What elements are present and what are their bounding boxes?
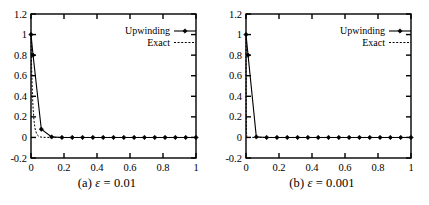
plot-area-b: -0.200.20.40.60.811.200.20.40.60.81Upwin…: [215, 0, 429, 205]
x-tick-label: 0.6: [338, 162, 351, 173]
y-tick-label: 0.6: [229, 70, 242, 81]
x-tick-label: 0.2: [272, 162, 285, 173]
x-tick-label: 0.8: [156, 162, 169, 173]
series-line-upwinding: [31, 35, 196, 138]
panel-b-caption-prefix: (b): [289, 176, 304, 190]
x-tick-label: 0.2: [57, 162, 70, 173]
y-tick-label: 1: [237, 29, 242, 40]
chart-panel-a: -0.200.20.40.60.811.200.20.40.60.81Upwin…: [0, 0, 214, 205]
y-tick-label: 1: [22, 29, 27, 40]
legend-label-upwinding: Upwinding: [340, 25, 385, 36]
y-tick-label: 0: [237, 132, 242, 143]
legend-sample-marker: [398, 29, 402, 33]
legend-sample-marker: [183, 29, 187, 33]
y-tick-label: 0.8: [14, 50, 27, 61]
y-tick-label: 1.2: [229, 9, 242, 20]
panel-b-caption-equals: =: [316, 176, 323, 190]
x-tick-label: 0.4: [90, 162, 104, 173]
y-tick-label: 1.2: [14, 9, 27, 20]
x-tick-label: 1: [193, 162, 198, 173]
y-tick-label: 0.2: [229, 111, 242, 122]
panel-a-caption-value: 0.01: [114, 176, 136, 190]
chart-panel-b: -0.200.20.40.60.811.200.20.40.60.81Upwin…: [215, 0, 429, 205]
x-tick-label: 0: [243, 162, 248, 173]
x-tick-label: 0: [28, 162, 33, 173]
series-line-exact: [31, 35, 196, 138]
panel-b-caption: (b) ε = 0.001: [215, 176, 429, 191]
y-tick-label: -0.2: [225, 153, 242, 164]
series-line-upwinding: [246, 35, 411, 138]
panel-a-caption-prefix: (a): [78, 176, 92, 190]
x-tick-label: 0.4: [305, 162, 319, 173]
plot-area-a: -0.200.20.40.60.811.200.20.40.60.81Upwin…: [0, 0, 214, 205]
legend-label-exact: Exact: [362, 37, 385, 48]
panel-a-caption-equals: =: [104, 176, 111, 190]
figure-container: -0.200.20.40.60.811.200.20.40.60.81Upwin…: [0, 0, 429, 205]
panel-a-caption: (a) ε = 0.01: [0, 176, 214, 191]
y-tick-label: 0.4: [229, 91, 243, 102]
y-tick-label: 0.4: [14, 91, 28, 102]
y-tick-label: 0.2: [14, 111, 27, 122]
panel-a-caption-symbol: ε: [95, 176, 100, 190]
panel-b-caption-value: 0.001: [326, 176, 355, 190]
legend-label-upwinding: Upwinding: [125, 25, 170, 36]
y-tick-label: 0.8: [229, 50, 242, 61]
panel-b-caption-symbol: ε: [307, 176, 312, 190]
x-tick-label: 0.6: [123, 162, 136, 173]
y-tick-label: 0: [22, 132, 27, 143]
x-tick-label: 0.8: [371, 162, 384, 173]
x-tick-label: 1: [408, 162, 413, 173]
legend-label-exact: Exact: [147, 37, 170, 48]
y-tick-label: -0.2: [10, 153, 27, 164]
series-line-exact: [246, 35, 411, 138]
y-tick-label: 0.6: [14, 70, 27, 81]
data-point-marker: [254, 135, 258, 139]
